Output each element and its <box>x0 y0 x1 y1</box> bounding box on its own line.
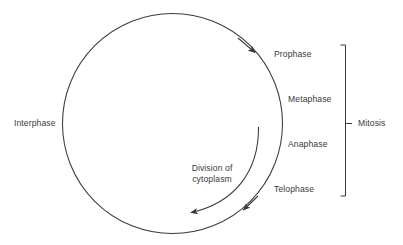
label-prophase: Prophase <box>274 49 312 60</box>
cell-cycle-diagram: Interphase Prophase Metaphase Anaphase T… <box>0 0 403 245</box>
label-telophase: Telophase <box>274 184 314 195</box>
label-metaphase: Metaphase <box>288 94 331 105</box>
label-anaphase: Anaphase <box>288 139 328 150</box>
diagram-canvas <box>0 0 403 245</box>
cycle-end-arrow-icon <box>244 196 259 210</box>
prophase-arrow-icon <box>238 38 255 53</box>
cell-cycle-circle <box>63 14 283 234</box>
label-division-line1: Division of <box>192 163 233 173</box>
mitosis-bracket <box>341 45 346 196</box>
label-interphase: Interphase <box>14 118 56 129</box>
label-mitosis: Mitosis <box>358 118 385 129</box>
label-division-of-cytoplasm: Division of cytoplasm <box>192 163 233 185</box>
label-division-line2: cytoplasm <box>192 174 233 185</box>
